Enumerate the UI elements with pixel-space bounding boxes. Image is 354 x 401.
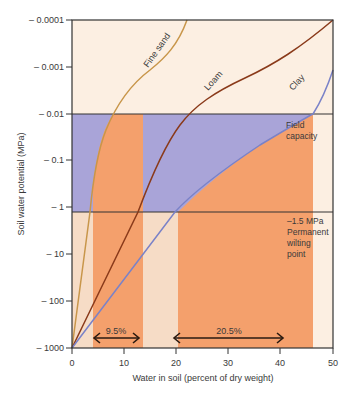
x-tick-label: 20 [171,358,181,368]
y-tick-labels: – 0.0001 – 0.001 – 0.01 – 0.1 – 1 – 10 –… [29,15,64,353]
y-tick-label: – 0.1 [44,155,64,165]
x-tick-label: 30 [223,358,233,368]
x-axis-title: Water in soil (percent of dry weight) [132,373,273,383]
y-tick-marks [66,20,72,348]
label-pwp-permanent: Permanent [287,227,329,237]
soil-water-chart: Fine sand Loam Clay Field capacity –1.5 … [0,0,354,401]
y-tick-label: – 0.001 [34,62,64,72]
y-tick-label: – 1 [51,202,64,212]
x-tick-label: 40 [275,358,285,368]
label-9-5-percent: 9.5% [106,326,127,336]
y-tick-label: – 0.0001 [29,15,64,25]
strip-between [143,212,178,348]
label-20-5-percent: 20.5% [216,326,242,336]
y-tick-label: – 10 [46,249,64,259]
x-tick-label: 50 [328,358,338,368]
x-tick-label: 10 [119,358,129,368]
x-tick-label: 0 [69,358,74,368]
label-field: Field [286,120,305,130]
label-capacity: capacity [286,131,318,141]
y-tick-label: – 100 [41,296,64,306]
x-tick-marks [72,348,333,354]
y-axis-title: Soil water potential (MPa) [16,132,26,235]
label-pwp-point: point [287,249,306,259]
y-tick-label: – 1000 [36,343,64,353]
x-tick-labels: 0 10 20 30 40 50 [69,358,338,368]
label-pwp-wilting: wilting [286,238,311,248]
label-pwp-value: –1.5 MPa [287,216,324,226]
strip-right-upper [313,114,333,212]
y-tick-label: – 0.01 [39,109,64,119]
